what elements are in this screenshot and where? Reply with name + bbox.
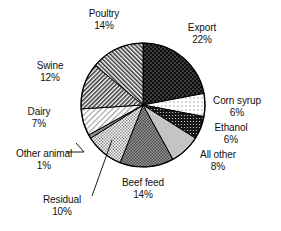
pie-label-dairy-name: Dairy [28,106,51,117]
pie-label-residual: Residual 10% [43,194,81,217]
pie-label-swine: Swine 12% [37,60,64,83]
pie-label-residual-name: Residual [43,194,81,205]
pie-label-poultry-name: Poultry [89,8,119,19]
pie-label-corn-syrup-name: Corn syrup [213,95,261,106]
pie-label-other-animal-name: Other animal [16,148,72,159]
pie-label-swine-value: 12% [37,72,64,84]
pie-label-ethanol-value: 6% [214,134,247,146]
pie-label-corn-syrup: Corn syrup 6% [213,95,261,118]
pie-label-swine-name: Swine [37,60,64,71]
pie-label-poultry: Poultry 14% [89,8,119,31]
pie-label-beef-feed-value: 14% [122,189,164,201]
pie-label-other-animal: Other animal 1% [16,148,72,171]
pie-label-export: Export 22% [188,22,216,45]
pie-label-ethanol: Ethanol 6% [214,122,247,145]
pie-label-beef-feed: Beef feed 14% [122,177,164,200]
pie-label-ethanol-name: Ethanol [214,122,247,133]
pie-label-poultry-value: 14% [89,20,119,32]
pie-label-dairy-value: 7% [28,118,51,130]
pie-label-export-name: Export [188,22,216,33]
pie-label-all-other-value: 8% [200,161,236,173]
pie-label-beef-feed-name: Beef feed [122,177,164,188]
pie-label-residual-value: 10% [43,206,81,218]
pie-chart: Poultry 14% Export 22% Corn syrup 6% Eth… [0,0,281,231]
pie-label-export-value: 22% [188,34,216,46]
pie-label-all-other-name: All other [200,149,236,160]
pie-label-all-other: All other 8% [200,149,236,172]
pie-label-other-animal-value: 1% [16,160,72,172]
pie-label-dairy: Dairy 7% [28,106,51,129]
pie-label-corn-syrup-value: 6% [213,107,261,119]
